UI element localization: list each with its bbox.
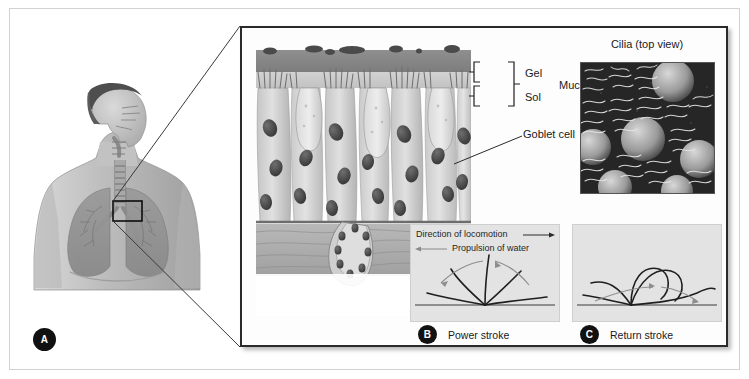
- label-gel: Gel: [525, 67, 542, 79]
- figure-root: A: [0, 0, 749, 379]
- power-stroke-panel: Direction of locomotion Propulsion of wa…: [410, 224, 560, 322]
- label-propulsion-of-water: Propulsion of water: [452, 243, 529, 253]
- magnified-panel: Gel Sol Mucous Goblet cell Cilia (top vi…: [240, 26, 728, 347]
- panel-b-caption: Power stroke: [448, 329, 509, 341]
- goblet-cell-leader-line: [452, 132, 528, 168]
- label-sol: Sol: [525, 91, 541, 103]
- panel-b-badge: B: [418, 325, 437, 344]
- label-direction-of-locomotion: Direction of locomotion: [416, 229, 508, 239]
- panel-a-torso-illustration: [22, 80, 212, 295]
- panel-c-badge: C: [580, 325, 599, 344]
- panel-c-caption: Return stroke: [610, 329, 673, 341]
- return-stroke-panel: [572, 224, 722, 322]
- sol-layer: [256, 72, 471, 88]
- arc-arrowhead-c1: [649, 283, 655, 289]
- label-goblet-cell: Goblet cell: [523, 128, 575, 140]
- cilia-power-stroke: [427, 255, 547, 305]
- arc-arrowhead-c2: [692, 298, 699, 304]
- cilia-micrograph: [580, 62, 715, 194]
- micrograph-title: Cilia (top view): [572, 38, 722, 50]
- gel-layer: [256, 50, 471, 72]
- mucous-brackets: [468, 56, 564, 116]
- panel-a-badge: A: [33, 328, 56, 351]
